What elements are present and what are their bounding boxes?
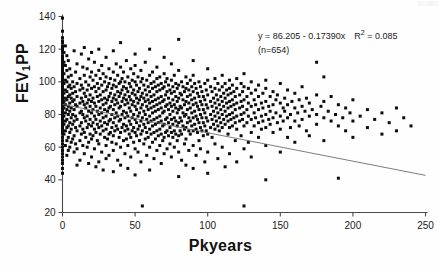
- data-point: [154, 138, 157, 141]
- data-point: [97, 48, 100, 51]
- data-point: [261, 92, 264, 95]
- data-point: [116, 90, 119, 93]
- data-point: [112, 97, 115, 100]
- data-point: [61, 149, 64, 152]
- data-point: [67, 59, 70, 62]
- data-point: [93, 115, 96, 118]
- data-point: [189, 133, 192, 136]
- data-point: [73, 120, 76, 123]
- data-point: [126, 90, 129, 93]
- data-point: [90, 100, 93, 103]
- data-point: [219, 121, 222, 124]
- data-point: [197, 95, 200, 98]
- data-point: [71, 123, 74, 126]
- data-point: [122, 110, 125, 113]
- data-point: [301, 85, 304, 88]
- data-point: [94, 105, 97, 108]
- data-point: [147, 98, 150, 101]
- data-point: [195, 154, 198, 157]
- data-point: [86, 126, 89, 129]
- data-point: [83, 131, 86, 134]
- data-point: [219, 95, 222, 98]
- data-point: [68, 93, 71, 96]
- data-point: [91, 134, 94, 137]
- data-point: [97, 100, 100, 103]
- data-point: [192, 90, 195, 93]
- data-point: [128, 95, 131, 98]
- data-point: [250, 155, 253, 158]
- data-point: [84, 80, 87, 83]
- data-point: [264, 87, 267, 90]
- data-point: [121, 100, 124, 103]
- data-point: [250, 118, 253, 121]
- data-point: [163, 110, 166, 113]
- data-point: [167, 134, 170, 137]
- data-point: [160, 120, 163, 123]
- data-point: [243, 147, 246, 150]
- data-point: [286, 116, 289, 119]
- data-point: [154, 98, 157, 101]
- data-point: [100, 84, 103, 87]
- data-point: [150, 95, 153, 98]
- data-point: [103, 136, 106, 139]
- data-point: [212, 123, 215, 126]
- data-point: [134, 173, 137, 176]
- data-point: [293, 106, 296, 109]
- data-point: [192, 59, 195, 62]
- data-point: [209, 126, 212, 129]
- data-point: [151, 100, 154, 103]
- data-point: [215, 120, 218, 123]
- data-point: [190, 111, 193, 114]
- data-point: [155, 77, 158, 80]
- data-point: [115, 111, 118, 114]
- data-point: [192, 116, 195, 119]
- data-point: [170, 131, 173, 134]
- data-point: [173, 129, 176, 132]
- data-point: [315, 93, 318, 96]
- data-point: [87, 98, 90, 101]
- data-point: [71, 138, 74, 141]
- data-point: [103, 80, 106, 83]
- data-point: [160, 133, 163, 136]
- data-point: [163, 56, 166, 59]
- data-point: [119, 92, 122, 95]
- data-point: [250, 80, 253, 83]
- data-point: [216, 124, 219, 127]
- data-point: [177, 151, 180, 154]
- data-point: [171, 110, 174, 113]
- data-point: [337, 124, 340, 127]
- data-point: [154, 110, 157, 113]
- data-point: [257, 84, 260, 87]
- data-point: [272, 131, 275, 134]
- data-point: [283, 97, 286, 100]
- data-point: [125, 87, 128, 90]
- data-point: [62, 100, 65, 103]
- data-point: [89, 93, 92, 96]
- data-point: [171, 136, 174, 139]
- data-point: [187, 149, 190, 152]
- data-point: [74, 142, 77, 145]
- data-point: [94, 118, 97, 121]
- data-point: [308, 115, 311, 118]
- data-point: [167, 121, 170, 124]
- data-point: [293, 120, 296, 123]
- data-point: [115, 142, 118, 145]
- data-point: [134, 147, 137, 150]
- data-point: [65, 54, 68, 57]
- data-point: [272, 90, 275, 93]
- data-point: [103, 108, 106, 111]
- data-point: [148, 169, 151, 172]
- data-point: [154, 123, 157, 126]
- data-point: [87, 162, 90, 165]
- x-axis-ticks: [63, 213, 426, 217]
- data-point: [174, 120, 177, 123]
- data-point: [171, 85, 174, 88]
- data-point: [64, 44, 67, 47]
- data-point: [187, 89, 190, 92]
- data-point: [129, 67, 132, 70]
- data-point: [68, 102, 71, 105]
- data-point: [90, 71, 93, 74]
- data-point: [139, 106, 142, 109]
- data-point: [141, 116, 144, 119]
- data-point: [254, 89, 257, 92]
